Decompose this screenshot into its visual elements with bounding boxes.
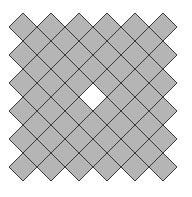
diamond-tiling-diagram <box>0 0 192 197</box>
